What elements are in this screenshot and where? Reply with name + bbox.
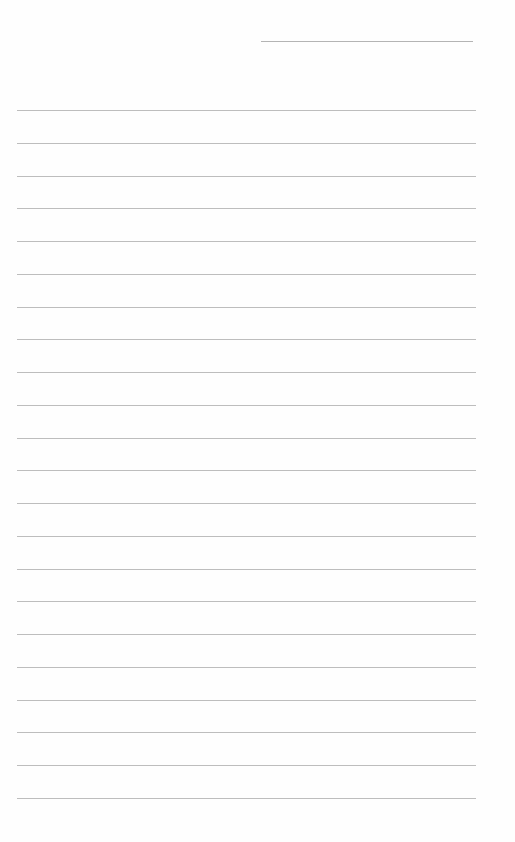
ruled-line — [17, 208, 476, 209]
ruled-line — [17, 274, 476, 275]
ruled-lines-container — [0, 0, 515, 842]
ruled-line — [17, 405, 476, 406]
ruled-line — [17, 339, 476, 340]
ruled-line — [17, 241, 476, 242]
ruled-line — [17, 700, 476, 701]
ruled-line — [17, 765, 476, 766]
ruled-line — [17, 503, 476, 504]
ruled-line — [17, 798, 476, 799]
ruled-line — [17, 569, 476, 570]
ruled-line — [17, 307, 476, 308]
ruled-line — [17, 634, 476, 635]
ruled-line — [17, 601, 476, 602]
ruled-line — [17, 470, 476, 471]
lined-paper-page — [0, 0, 515, 842]
ruled-line — [17, 438, 476, 439]
ruled-line — [17, 667, 476, 668]
ruled-line — [17, 536, 476, 537]
ruled-line — [17, 732, 476, 733]
ruled-line — [17, 176, 476, 177]
ruled-line — [17, 143, 476, 144]
ruled-line — [17, 372, 476, 373]
ruled-line — [17, 110, 476, 111]
